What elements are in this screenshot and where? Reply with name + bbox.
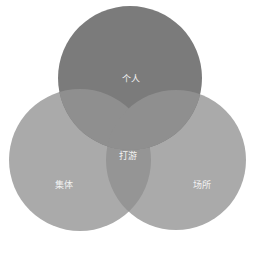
label-collective: 集体 [55,178,73,191]
venn-diagram [0,0,261,263]
label-individual: 个人 [122,72,140,85]
label-intersection: 打游 [119,149,137,162]
label-venue: 场所 [193,178,211,191]
